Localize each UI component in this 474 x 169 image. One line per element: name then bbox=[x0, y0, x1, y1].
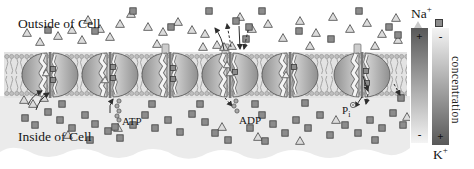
adp-molecule-bead bbox=[232, 104, 236, 108]
k-ion-square bbox=[112, 124, 118, 130]
k-gradient-title: K+ bbox=[433, 146, 448, 161]
k-ion-square bbox=[342, 122, 348, 128]
pump-channel-k-ion bbox=[111, 65, 116, 70]
pump-channel-k-ion bbox=[111, 76, 116, 81]
cell-membrane-diagram: Outside of Cell Inside of Cell ATP ADP P… bbox=[0, 0, 474, 169]
ion-flow-arrow bbox=[239, 26, 240, 49]
k-ion-square bbox=[327, 132, 333, 138]
k-ion-square bbox=[165, 117, 171, 123]
k-ion-square bbox=[197, 101, 203, 107]
k-ion-square bbox=[372, 137, 378, 143]
k-ion-square bbox=[355, 130, 361, 136]
k-ion-square bbox=[142, 112, 148, 118]
inside-cell-label: Inside of Cell bbox=[18, 129, 92, 144]
sodium-potassium-pump bbox=[82, 52, 138, 98]
k-ion-square bbox=[246, 24, 252, 30]
na-ion-triangle bbox=[153, 40, 162, 48]
na-ion-triangle bbox=[329, 13, 338, 21]
k-ion-square bbox=[92, 121, 98, 127]
na-bar-top-sign: + bbox=[411, 31, 428, 42]
k-ion-square bbox=[328, 36, 334, 42]
na-ion-triangle bbox=[201, 30, 210, 38]
k-gradient-bar: - + bbox=[432, 28, 449, 145]
k-ion-square bbox=[202, 119, 208, 125]
k-ion-square bbox=[177, 129, 183, 135]
k-ion-square bbox=[398, 95, 404, 101]
adp-molecule-bead bbox=[235, 109, 239, 113]
atp-molecule-bead bbox=[115, 104, 119, 108]
adp-molecule-bead bbox=[234, 99, 238, 103]
na-ion-triangle bbox=[199, 43, 208, 51]
k-ion-square bbox=[379, 125, 385, 131]
membrane-diagram-canvas: Outside of Cell Inside of Cell ATP ADP P… bbox=[0, 0, 410, 169]
pump-channel-k-ion bbox=[51, 67, 56, 72]
k-ion-square bbox=[400, 122, 406, 128]
na-ion-triangle bbox=[363, 19, 372, 27]
k-ion-square bbox=[130, 8, 136, 14]
sodium-potassium-pump bbox=[142, 52, 198, 98]
atp-molecule-bead bbox=[117, 109, 121, 113]
na-ion-triangle bbox=[264, 20, 273, 28]
pump-channel-k-ion bbox=[171, 77, 176, 82]
k-ion-square bbox=[168, 24, 174, 30]
k-ion-square bbox=[45, 109, 51, 115]
na-ion-triangle bbox=[159, 28, 168, 36]
na-ion-triangle bbox=[106, 33, 115, 41]
na-ion-triangle bbox=[144, 23, 153, 31]
na-ion-triangle bbox=[54, 32, 63, 40]
na-ion-icon bbox=[414, 21, 422, 28]
atp-molecule-bead bbox=[117, 99, 121, 103]
atp-molecule-bead bbox=[115, 114, 119, 118]
k-ion-square bbox=[317, 112, 323, 118]
na-ion-triangle bbox=[213, 41, 222, 49]
k-ion-square bbox=[262, 138, 268, 144]
pump-gate-cap bbox=[354, 44, 361, 54]
k-ion-square bbox=[356, 8, 362, 14]
pump-channel-k-ion bbox=[364, 69, 369, 74]
k-ion-square bbox=[367, 117, 373, 123]
na-ion-triangle bbox=[174, 18, 183, 26]
k-ion-square bbox=[233, 18, 239, 24]
k-ion-square bbox=[32, 122, 38, 128]
pump-channel-k-ion bbox=[233, 70, 238, 75]
phosphate-molecule-dot bbox=[352, 104, 354, 106]
k-ion-square bbox=[189, 111, 195, 117]
na-ion-triangle bbox=[378, 30, 387, 38]
na-ion-triangle bbox=[279, 34, 288, 42]
na-ion-triangle bbox=[116, 20, 125, 28]
k-ion-square bbox=[59, 101, 65, 107]
pump-channel-k-ion bbox=[51, 78, 56, 83]
sodium-potassium-pump bbox=[22, 52, 78, 98]
k-ion-square bbox=[22, 115, 28, 121]
outside-cell-label: Outside of Cell bbox=[18, 16, 101, 31]
pump-gate-cap bbox=[162, 44, 169, 54]
na-ion-triangle bbox=[392, 14, 401, 22]
k-ion-square bbox=[82, 112, 88, 118]
k-ion-square bbox=[57, 117, 63, 123]
na-ion-triangle bbox=[188, 26, 197, 34]
na-ion-triangle bbox=[78, 36, 87, 44]
na-ion-triangle bbox=[346, 25, 355, 33]
sodium-potassium-pump bbox=[334, 52, 390, 98]
k-bar-bottom-sign: + bbox=[432, 131, 449, 142]
atp-molecule-bead bbox=[117, 118, 121, 122]
k-ion-square bbox=[386, 24, 392, 30]
sodium-potassium-pump bbox=[262, 52, 318, 98]
na-ion-triangle bbox=[371, 42, 380, 50]
na-ion-triangle bbox=[306, 42, 315, 50]
k-ion-square bbox=[152, 125, 158, 131]
k-ion-square bbox=[149, 101, 155, 107]
pump-channel-k-ion bbox=[171, 66, 176, 71]
k-ion-square bbox=[293, 117, 299, 123]
k-ion-square bbox=[225, 137, 231, 143]
k-ion-square bbox=[270, 121, 276, 127]
k-ion-square bbox=[282, 130, 288, 136]
na-ion-triangle bbox=[312, 29, 321, 37]
na-ion-triangle bbox=[296, 17, 305, 25]
pump-channel-k-ion bbox=[292, 65, 297, 70]
na-gradient-title: Na+ bbox=[411, 5, 432, 20]
na-ion-triangle bbox=[36, 38, 45, 46]
k-ion-square bbox=[252, 101, 258, 107]
k-ion-square bbox=[105, 128, 111, 134]
na-gradient-bar: + - bbox=[411, 28, 428, 143]
